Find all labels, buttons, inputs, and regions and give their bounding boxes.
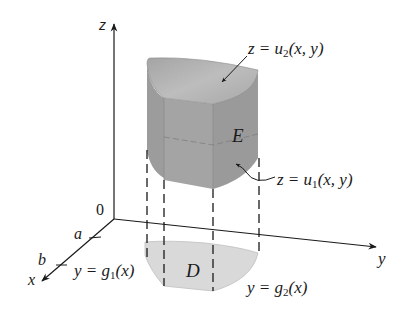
z-axis-label: z xyxy=(99,18,106,32)
region-d-label: D xyxy=(186,261,200,280)
tick-b-label: b xyxy=(38,252,46,268)
tick-a-label: a xyxy=(74,226,82,242)
region-d xyxy=(145,241,258,291)
origin-label: 0 xyxy=(96,202,104,218)
tick-a xyxy=(89,237,101,238)
lower-surface-label: z = u1(x, y) xyxy=(277,171,353,190)
x-axis-label: x xyxy=(28,272,35,288)
solid-e-label: E xyxy=(232,126,244,145)
solid-front-face xyxy=(164,98,213,189)
left-curve-label: y = g1(x) xyxy=(74,262,134,281)
y-axis-label: y xyxy=(378,250,386,267)
upper-surface-label: z = u2(x, y) xyxy=(248,40,324,59)
right-curve-label: y = g2(x) xyxy=(247,279,307,298)
